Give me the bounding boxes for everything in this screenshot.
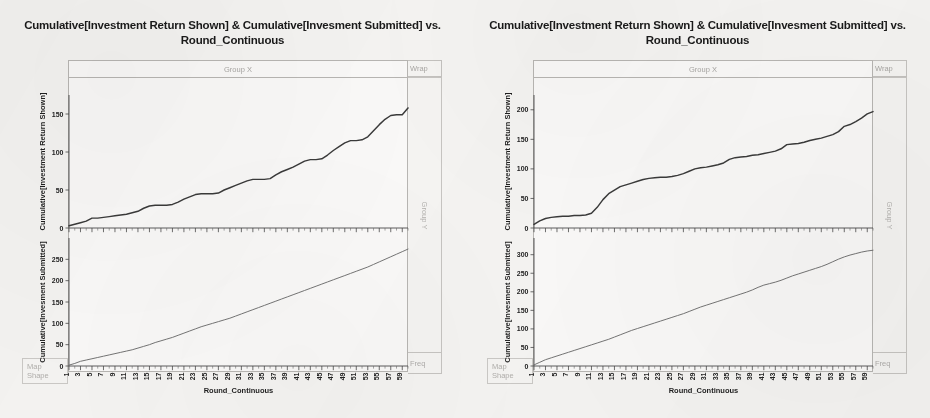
svg-text:Round_Continuous: Round_Continuous xyxy=(204,386,274,395)
panel-left: Cumulative[Investment Return Shown] & Cu… xyxy=(0,0,465,418)
svg-text:150: 150 xyxy=(517,136,529,143)
svg-text:0: 0 xyxy=(525,225,529,232)
svg-text:Cumulative[Investment Return S: Cumulative[Investment Return Shown] xyxy=(503,92,512,230)
svg-text:150: 150 xyxy=(517,307,529,314)
svg-text:100: 100 xyxy=(517,325,529,332)
svg-text:7: 7 xyxy=(97,372,104,376)
svg-text:25: 25 xyxy=(666,372,673,380)
svg-text:37: 37 xyxy=(735,372,742,380)
svg-text:29: 29 xyxy=(689,372,696,380)
svg-text:39: 39 xyxy=(746,372,753,380)
svg-text:57: 57 xyxy=(385,372,392,380)
svg-text:23: 23 xyxy=(189,372,196,380)
svg-text:45: 45 xyxy=(781,372,788,380)
svg-text:19: 19 xyxy=(166,372,173,380)
svg-text:5: 5 xyxy=(551,372,558,376)
svg-text:35: 35 xyxy=(258,372,265,380)
svg-text:39: 39 xyxy=(281,372,288,380)
svg-text:19: 19 xyxy=(631,372,638,380)
svg-text:27: 27 xyxy=(677,372,684,380)
svg-text:11: 11 xyxy=(585,372,592,380)
svg-text:33: 33 xyxy=(247,372,254,380)
svg-text:53: 53 xyxy=(362,372,369,380)
svg-text:300: 300 xyxy=(517,251,529,258)
svg-text:5: 5 xyxy=(86,372,93,376)
svg-text:200: 200 xyxy=(517,106,529,113)
svg-text:21: 21 xyxy=(178,372,185,380)
svg-text:3: 3 xyxy=(74,372,81,376)
panel-right: Cumulative[Investment Return Shown] & Cu… xyxy=(465,0,930,418)
svg-text:50: 50 xyxy=(56,341,64,348)
plot-svg-right: 050100150200Cumulative[Investment Return… xyxy=(465,0,930,418)
svg-text:200: 200 xyxy=(52,277,64,284)
svg-text:43: 43 xyxy=(304,372,311,380)
svg-text:59: 59 xyxy=(396,372,403,380)
svg-text:100: 100 xyxy=(52,320,64,327)
svg-text:13: 13 xyxy=(132,372,139,380)
svg-text:29: 29 xyxy=(224,372,231,380)
svg-text:250: 250 xyxy=(517,270,529,277)
svg-text:15: 15 xyxy=(608,372,615,380)
svg-text:150: 150 xyxy=(52,111,64,118)
svg-text:37: 37 xyxy=(270,372,277,380)
svg-text:55: 55 xyxy=(373,372,380,380)
svg-text:31: 31 xyxy=(235,372,242,380)
svg-text:Cumulative[Investment Return S: Cumulative[Investment Return Shown] xyxy=(38,92,47,230)
svg-text:Round_Continuous: Round_Continuous xyxy=(669,386,739,395)
svg-text:3: 3 xyxy=(539,372,546,376)
svg-text:9: 9 xyxy=(109,372,116,376)
svg-text:51: 51 xyxy=(815,372,822,380)
svg-text:250: 250 xyxy=(52,256,64,263)
svg-text:11: 11 xyxy=(120,372,127,380)
svg-text:27: 27 xyxy=(212,372,219,380)
svg-text:55: 55 xyxy=(838,372,845,380)
svg-text:13: 13 xyxy=(597,372,604,380)
svg-text:17: 17 xyxy=(620,372,627,380)
svg-text:7: 7 xyxy=(562,372,569,376)
svg-text:35: 35 xyxy=(723,372,730,380)
svg-text:47: 47 xyxy=(327,372,334,380)
svg-text:1: 1 xyxy=(63,372,70,376)
svg-text:50: 50 xyxy=(56,187,64,194)
figure-sheet: Cumulative[Investment Return Shown] & Cu… xyxy=(0,0,930,418)
svg-text:1: 1 xyxy=(528,372,535,376)
svg-text:21: 21 xyxy=(643,372,650,380)
svg-text:47: 47 xyxy=(792,372,799,380)
svg-text:41: 41 xyxy=(758,372,765,380)
svg-text:59: 59 xyxy=(861,372,868,380)
svg-text:25: 25 xyxy=(201,372,208,380)
svg-text:Cumulative[Invesment Submitted: Cumulative[Invesment Submitted] xyxy=(38,241,47,363)
svg-text:49: 49 xyxy=(339,372,346,380)
svg-text:49: 49 xyxy=(804,372,811,380)
svg-text:57: 57 xyxy=(850,372,857,380)
svg-text:41: 41 xyxy=(293,372,300,380)
svg-text:0: 0 xyxy=(60,225,64,232)
svg-text:50: 50 xyxy=(521,344,529,351)
svg-text:100: 100 xyxy=(517,165,529,172)
svg-text:31: 31 xyxy=(700,372,707,380)
svg-text:17: 17 xyxy=(155,372,162,380)
plot-svg-left: 050100150Cumulative[Investment Return Sh… xyxy=(0,0,465,418)
svg-text:43: 43 xyxy=(769,372,776,380)
svg-text:23: 23 xyxy=(654,372,661,380)
svg-text:33: 33 xyxy=(712,372,719,380)
svg-text:45: 45 xyxy=(316,372,323,380)
svg-text:0: 0 xyxy=(60,363,64,370)
svg-text:150: 150 xyxy=(52,299,64,306)
svg-text:51: 51 xyxy=(350,372,357,380)
svg-text:9: 9 xyxy=(574,372,581,376)
svg-text:Cumulative[Invesment Submitted: Cumulative[Invesment Submitted] xyxy=(503,241,512,363)
svg-text:53: 53 xyxy=(827,372,834,380)
svg-text:50: 50 xyxy=(521,195,529,202)
svg-text:15: 15 xyxy=(143,372,150,380)
svg-text:0: 0 xyxy=(525,363,529,370)
svg-text:200: 200 xyxy=(517,288,529,295)
svg-text:100: 100 xyxy=(52,149,64,156)
